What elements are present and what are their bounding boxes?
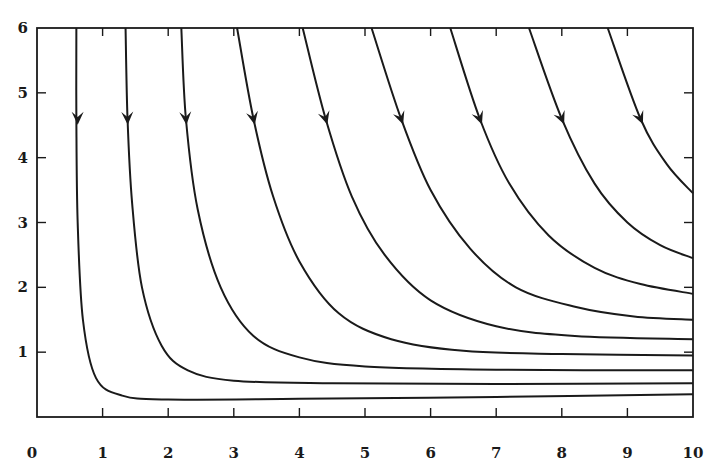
trajectory-plot: 012345678910 123456 (0, 0, 722, 475)
trajectory-curves (76, 28, 693, 400)
x-tick-label: 8 (557, 444, 567, 462)
trajectory-curve (181, 28, 693, 370)
trajectory-curve (450, 28, 693, 294)
x-tick-label: 7 (491, 444, 501, 462)
y-tick-label: 6 (18, 19, 28, 37)
x-tick-label: 0 (27, 444, 37, 462)
x-tick-label: 4 (294, 444, 304, 462)
x-axis-tick-labels: 012345678910 (27, 444, 704, 462)
trajectory-curve (303, 28, 693, 339)
trajectory-curve (372, 28, 693, 320)
y-tick-label: 2 (18, 278, 28, 296)
x-tick-label: 10 (683, 444, 704, 462)
trajectory-curve (529, 28, 693, 258)
y-tick-label: 1 (18, 343, 28, 361)
y-tick-label: 3 (18, 214, 28, 232)
direction-arrows (72, 110, 644, 125)
x-tick-label: 5 (360, 444, 370, 462)
y-tick-label: 4 (18, 149, 28, 167)
trajectory-curve (76, 28, 693, 400)
x-tick-label: 1 (97, 444, 107, 462)
trajectory-curve (126, 28, 693, 384)
arrowhead-icon (72, 112, 84, 125)
x-tick-label: 2 (163, 444, 173, 462)
trajectory-curve (608, 28, 693, 193)
x-tick-label: 9 (622, 444, 632, 462)
y-axis-tick-labels: 123456 (18, 19, 28, 361)
y-tick-label: 5 (18, 84, 28, 102)
x-tick-label: 3 (229, 444, 239, 462)
x-tick-label: 6 (425, 444, 435, 462)
